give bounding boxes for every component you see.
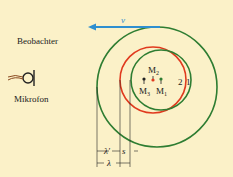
velocity-label: v <box>121 15 125 25</box>
wave-2-label: 2 <box>178 77 183 87</box>
m3-label: M3 <box>139 86 150 97</box>
lambda-label: λ <box>106 158 111 168</box>
wave-1-label: 1 <box>186 77 191 87</box>
s-label: s <box>122 146 126 156</box>
microphone-icon <box>8 70 34 86</box>
m1-label: M1 <box>156 86 167 97</box>
m2-label: M2 <box>148 65 159 76</box>
doppler-diagram: v Beobachter Mikrofon M2 M3 M1 2 1 λ' s … <box>0 0 233 177</box>
microphone-label: Mikrofon <box>14 94 49 104</box>
lambda-prime-label: λ' <box>103 146 111 156</box>
source-points <box>142 76 162 84</box>
observer-label: Beobachter <box>17 36 58 46</box>
